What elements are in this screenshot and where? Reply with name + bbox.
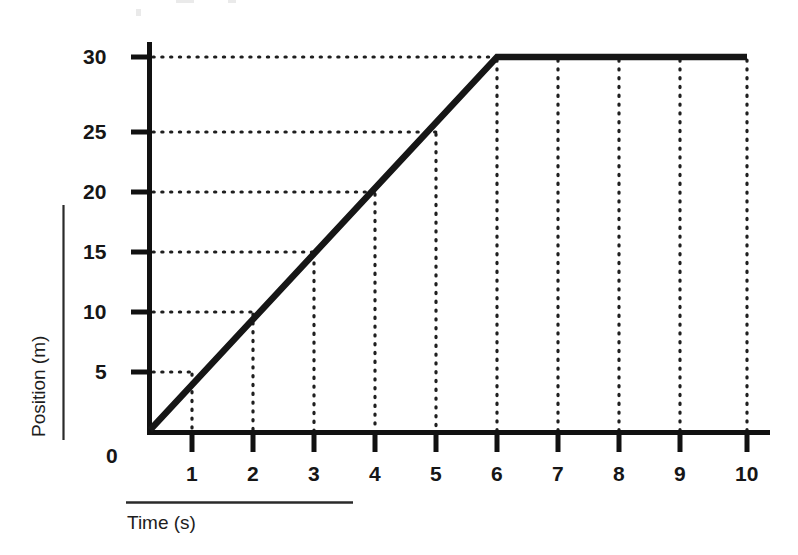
x-tick-label-6: 6 <box>491 462 503 486</box>
y-tick-label-5: 5 <box>95 360 107 384</box>
x-tick-label-4: 4 <box>369 462 381 486</box>
x-tick-label-10: 10 <box>735 462 758 486</box>
x-tick-label-1: 1 <box>186 462 198 486</box>
x-tick-label-5: 5 <box>430 462 442 486</box>
position-time-chart: 30 25 20 15 10 5 0 1 2 3 4 5 6 7 8 9 10 … <box>0 0 798 555</box>
x-tick-label-9: 9 <box>674 462 686 486</box>
x-tick-label-3: 3 <box>308 462 320 486</box>
origin-zero-label: 0 <box>106 444 118 468</box>
y-tick-label-10: 10 <box>83 300 106 324</box>
x-tick-label-2: 2 <box>247 462 259 486</box>
y-tick-label-25: 25 <box>83 120 106 144</box>
y-axis-title: Position (m) <box>28 336 50 437</box>
y-tick-label-30: 30 <box>83 45 106 69</box>
x-tick-label-8: 8 <box>613 462 625 486</box>
y-tick-label-15: 15 <box>83 240 106 264</box>
x-axis-title: Time (s) <box>127 512 196 534</box>
y-tick-label-20: 20 <box>83 180 106 204</box>
position-curve <box>150 57 747 430</box>
vertical-gridlines <box>192 60 747 432</box>
x-tick-label-7: 7 <box>552 462 564 486</box>
x-axis-ticks <box>192 433 747 452</box>
